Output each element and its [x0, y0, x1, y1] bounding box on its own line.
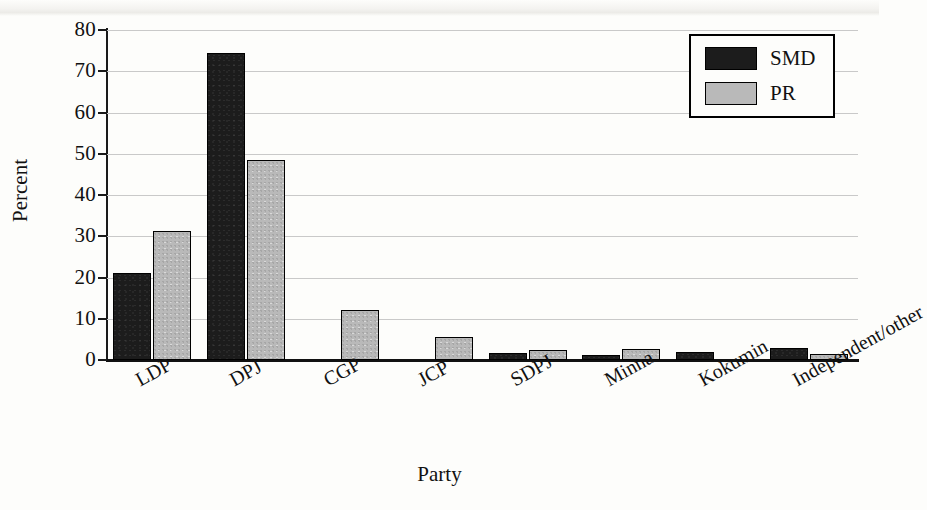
bar-group: [107, 30, 201, 360]
bar-smd-dpj: [207, 53, 245, 360]
y-axis-tick-label: 40: [60, 184, 96, 205]
bar-smd-independent-other: [770, 348, 808, 360]
y-axis-tick: [98, 277, 107, 279]
y-axis-tick: [98, 235, 107, 237]
bar-group: [201, 30, 295, 360]
legend-label-smd: SMD: [770, 48, 816, 69]
bar-group: [389, 30, 483, 360]
y-axis-tick: [98, 112, 107, 114]
legend-swatch-pr-icon: [705, 82, 757, 105]
bar-pr-dpj: [247, 160, 285, 360]
y-axis-title: Percent: [8, 106, 33, 276]
y-axis-tick: [98, 29, 107, 31]
bar-group: [295, 30, 389, 360]
y-axis-tick-label: 60: [60, 102, 96, 123]
legend-item-smd: SMD: [705, 45, 816, 71]
y-axis-tick: [98, 194, 107, 196]
legend-swatch-smd-icon: [705, 47, 757, 70]
bar-pr-ldp: [153, 231, 191, 360]
bar-group: [483, 30, 577, 360]
y-axis-tick: [98, 359, 107, 361]
bar-smd-kokumin: [676, 352, 714, 360]
y-axis-tick: [98, 318, 107, 320]
bar-pr-cgp: [341, 310, 379, 360]
legend-item-pr: PR: [705, 80, 796, 106]
y-axis-tick-label: 50: [60, 143, 96, 164]
y-axis-tick: [98, 70, 107, 72]
legend: SMD PR: [689, 34, 835, 118]
y-axis-tick-label: 0: [60, 349, 96, 370]
bar-smd-minna: [582, 355, 620, 360]
y-axis-tick-label: 70: [60, 60, 96, 81]
y-axis-tick-label: 30: [60, 225, 96, 246]
y-axis-tick-label: 80: [60, 19, 96, 40]
x-axis-title: Party: [0, 462, 879, 487]
bar-group: [576, 30, 670, 360]
bar-smd-ldp: [113, 273, 151, 360]
y-axis-tick: [98, 153, 107, 155]
bar-smd-sdpj: [489, 353, 527, 360]
legend-label-pr: PR: [770, 83, 796, 104]
scan-artifact-band: [0, 0, 879, 16]
y-axis-tick-label: 20: [60, 267, 96, 288]
y-axis-tick-label: 10: [60, 308, 96, 329]
